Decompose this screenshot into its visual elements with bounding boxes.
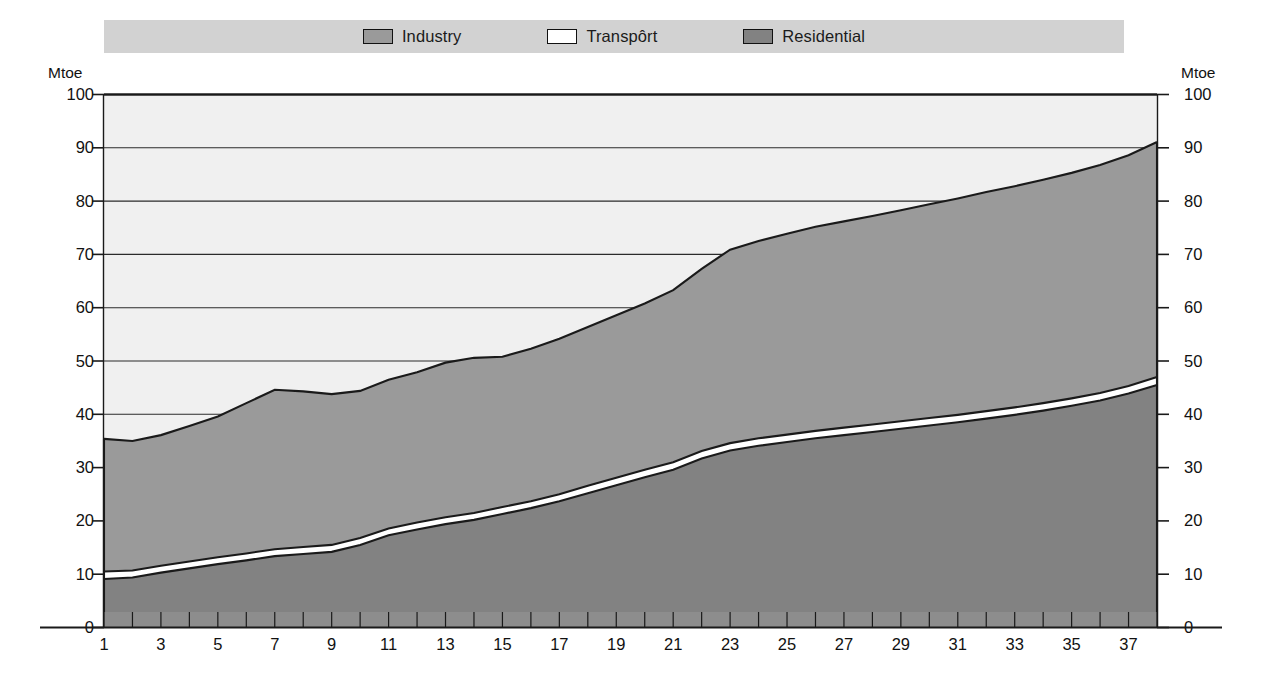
plot-area xyxy=(0,0,1262,689)
x-axis-strip xyxy=(104,612,1157,627)
stacked-area-chart: Industry Transpôrt Residential Mtoe Mtoe… xyxy=(0,0,1262,689)
